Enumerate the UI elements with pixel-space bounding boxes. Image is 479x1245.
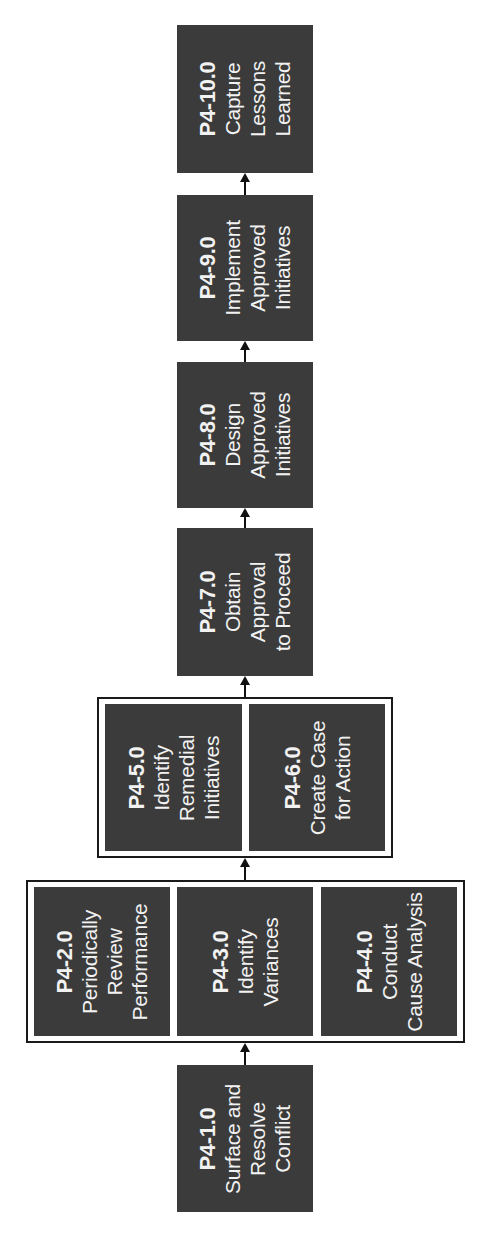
connector-p9-to-p10 [244, 180, 246, 195]
step-label-line: Identify [233, 917, 258, 1006]
step-code: P4-10.0 [195, 61, 220, 137]
step-code: P4-9.0 [195, 220, 220, 315]
step-label-line: Create Case [305, 720, 330, 835]
step-p4-6-create-case-for-action: P4-6.0 Create Case for Action [249, 704, 385, 851]
step-label-line: Design [220, 391, 245, 479]
step-code: P4-1.0 [195, 1084, 220, 1194]
arrow-up-icon [240, 341, 250, 350]
step-p4-5-identify-remedial-initiatives: P4-5.0 Identify Remedial Initiatives [105, 704, 242, 851]
connector-group2-to-p7 [244, 683, 246, 697]
arrow-up-icon [240, 508, 250, 517]
connector-p1-to-group1 [244, 1050, 246, 1065]
arrow-up-icon [240, 858, 250, 867]
step-code: P4-5.0 [124, 734, 149, 820]
step-label-line: to Proceed [270, 553, 295, 652]
step-label-line: Surface and [220, 1084, 245, 1194]
step-label-line: Implement [220, 220, 245, 315]
step-label-line: Cause Analysis [402, 892, 427, 1031]
step-p4-9-implement-approved-initiatives: P4-9.0 Implement Approved Initiatives [177, 195, 313, 341]
step-p4-10-capture-lessons-learned: P4-10.0 Capture Lessons Learned [177, 25, 313, 173]
step-label-line: Performance [127, 903, 152, 1020]
step-p4-2-periodically-review-performance: P4-2.0 Periodically Review Performance [34, 887, 170, 1036]
arrow-up-icon [240, 1043, 250, 1052]
step-code: P4-7.0 [195, 553, 220, 652]
step-label-line: Approval [245, 553, 270, 652]
step-label-line: Initiatives [270, 391, 295, 479]
step-code: P4-3.0 [208, 917, 233, 1006]
step-code: P4-4.0 [352, 892, 377, 1031]
step-label-line: Initiatives [199, 734, 224, 820]
step-label-line: Initiatives [270, 220, 295, 315]
arrow-up-icon [240, 676, 250, 685]
step-label-line: Identify [149, 734, 174, 820]
step-label-line: Approved [245, 220, 270, 315]
step-label-line: Capture [220, 61, 245, 137]
step-label-line: Remedial [174, 734, 199, 820]
step-label-line: Review [102, 903, 127, 1020]
step-p4-8-design-approved-initiatives: P4-8.0 Design Approved Initiatives [177, 362, 313, 508]
step-label-line: Lessons [245, 61, 270, 137]
arrow-up-icon [240, 173, 250, 182]
connector-group1-to-group2 [244, 865, 246, 880]
step-label-line: Conduct [377, 892, 402, 1031]
step-label-line: Obtain [220, 553, 245, 652]
step-code: P4-6.0 [280, 720, 305, 835]
step-label-line: Conflict [270, 1084, 295, 1194]
step-p4-7-obtain-approval: P4-7.0 Obtain Approval to Proceed [177, 528, 313, 676]
step-label-line: Learned [270, 61, 295, 137]
step-code: P4-8.0 [195, 391, 220, 479]
step-p4-4-conduct-cause-analysis: P4-4.0 Conduct Cause Analysis [321, 887, 457, 1036]
step-p4-1-surface-and-resolve-conflict: P4-1.0 Surface and Resolve Conflict [177, 1065, 313, 1212]
step-label-line: Approved [245, 391, 270, 479]
step-label-line: for Action [330, 720, 355, 835]
step-label-line: Periodically [77, 903, 102, 1020]
connector-p8-to-p9 [244, 348, 246, 362]
step-code: P4-2.0 [52, 903, 77, 1020]
step-label-line: Resolve [245, 1084, 270, 1194]
step-p4-3-identify-variances: P4-3.0 Identify Variances [177, 887, 313, 1036]
step-label-line: Variances [258, 917, 283, 1006]
